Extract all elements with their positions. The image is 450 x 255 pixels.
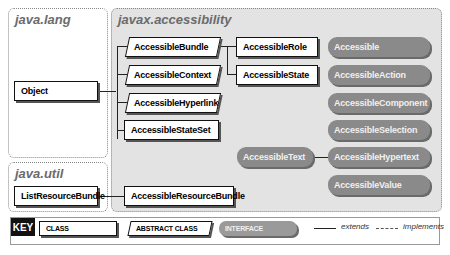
class-accessible-state[interactable]: AccessibleState [236,65,318,85]
class-label: ListResourceBundle [21,191,105,201]
class-accessible-state-set[interactable]: AccessibleStateSet [124,120,219,140]
class-accessible-role[interactable]: AccessibleRole [236,37,318,57]
legend-abstract-class: ABSTRACT CLASS [127,221,212,236]
legend-key-label: KEY [11,218,35,236]
extends-line [220,46,236,47]
interface-accessible-value[interactable]: AccessibleValue [328,175,430,195]
class-list-resource-bundle[interactable]: ListResourceBundle [14,186,98,206]
legend-interface: INTERFACE [219,221,297,236]
class-label: Object [21,86,48,96]
legend-class-label: CLASS [46,225,69,232]
legend-abstract-label: ABSTRACT CLASS [136,225,197,232]
class-label: AccessibleContext [134,70,211,80]
extends-line [117,74,127,75]
legend-interface-label: INTERFACE [225,225,263,232]
package-title: java.lang [15,12,71,27]
class-label: AccessibleRole [243,42,307,52]
abstract-class-accessible-context[interactable]: AccessibleContext [125,65,221,85]
interface-accessible-text[interactable]: AccessibleText [237,147,313,167]
extends-line [117,46,127,47]
extends-line [98,91,116,92]
extends-line [117,102,127,103]
legend: KEY CLASS ABSTRACT CLASS INTERFACE exten… [10,217,440,245]
extends-line [313,157,328,158]
legend-implements-label: implements [403,222,444,231]
abstract-class-accessible-bundle[interactable]: AccessibleBundle [125,37,221,57]
interface-label: AccessibleValue [334,180,402,190]
abstract-class-accessible-hyperlink[interactable]: AccessibleHyperlink [125,93,221,113]
class-label: AccessibleResourceBundle [131,191,245,201]
extends-line [117,46,118,139]
interface-label: AccessibleAction [334,70,406,80]
class-label: AccessibleState [243,70,309,80]
legend-extends-label: extends [341,222,369,231]
interface-label: AccessibleText [243,152,305,162]
interface-label: AccessibleSelection [334,125,417,135]
class-label: AccessibleStateSet [131,125,210,135]
interface-accessible[interactable]: Accessible [328,37,430,57]
interface-accessible-hypertext[interactable]: AccessibleHypertext [328,147,430,167]
class-label: AccessibleHyperlink [134,98,218,108]
class-accessible-resource-bundle[interactable]: AccessibleResourceBundle [124,186,234,206]
legend-extends-line [314,228,336,229]
package-title: javax.accessibility [118,12,231,27]
interface-accessible-component[interactable]: AccessibleComponent [328,93,430,113]
package-title: java.util [15,166,63,181]
interface-label: Accessible [334,42,379,52]
interface-accessible-action[interactable]: AccessibleAction [328,65,430,85]
extends-line [227,46,228,74]
class-label: AccessibleBundle [134,42,208,52]
interface-label: AccessibleComponent [334,98,427,108]
extends-line [227,74,236,75]
legend-class: CLASS [39,221,117,236]
legend-implements-line [376,228,398,229]
class-object[interactable]: Object [14,81,98,101]
interface-label: AccessibleHypertext [334,152,419,162]
interface-accessible-selection[interactable]: AccessibleSelection [328,120,430,140]
